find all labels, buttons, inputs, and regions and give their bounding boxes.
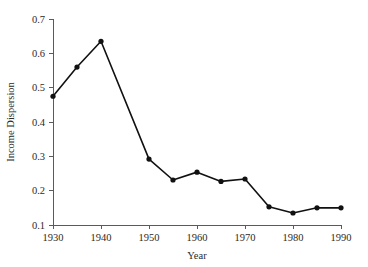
x-tick-label-1960: 1960 (187, 232, 208, 243)
x-tick-label-1940: 1940 (91, 232, 112, 243)
x-tick-label-1990: 1990 (331, 232, 352, 243)
x-axis: 1930194019501960197019801990 (43, 225, 352, 243)
y-tick-label-0.1: 0.1 (32, 220, 45, 231)
data-point (266, 204, 271, 209)
x-axis-title: Year (187, 250, 207, 261)
y-tick-label-0.5: 0.5 (32, 82, 45, 93)
data-point (74, 64, 79, 69)
data-point (146, 156, 151, 161)
x-axis-tick-labels: 1930194019501960197019801990 (43, 232, 352, 243)
y-tick-label-0.2: 0.2 (32, 185, 45, 196)
y-axis-title: Income Dispersion (5, 81, 16, 161)
data-point (170, 177, 175, 182)
data-series-income-dispersion (50, 39, 343, 216)
line-chart-figure: 0.10.20.30.40.50.60.7 193019401950196019… (0, 0, 368, 267)
data-point (242, 176, 247, 181)
y-tick-label-0.6: 0.6 (32, 48, 45, 59)
y-tick-label-0.7: 0.7 (32, 14, 45, 25)
y-axis-ticks (49, 19, 53, 225)
data-point (314, 205, 319, 210)
y-axis: 0.10.20.30.40.50.60.7 (32, 14, 53, 231)
x-axis-ticks (53, 225, 341, 229)
y-tick-label-0.4: 0.4 (32, 117, 46, 128)
x-tick-label-1970: 1970 (235, 232, 256, 243)
x-tick-label-1950: 1950 (139, 232, 160, 243)
data-point (98, 39, 103, 44)
x-tick-label-1980: 1980 (283, 232, 304, 243)
data-point (338, 205, 343, 210)
data-point (218, 179, 223, 184)
series-line (53, 41, 341, 213)
data-point (50, 94, 55, 99)
y-tick-label-0.3: 0.3 (32, 151, 45, 162)
series-markers (50, 39, 343, 216)
data-point (290, 210, 295, 215)
y-axis-tick-labels: 0.10.20.30.40.50.60.7 (32, 14, 46, 231)
chart-canvas: 0.10.20.30.40.50.60.7 193019401950196019… (0, 0, 368, 267)
data-point (194, 170, 199, 175)
x-tick-label-1930: 1930 (43, 232, 64, 243)
